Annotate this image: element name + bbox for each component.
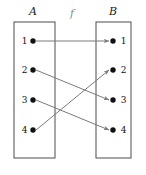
element-label-b4: 4: [119, 126, 128, 135]
arrow-a3-to-b4: [36, 100, 109, 130]
element-dot-a2: [30, 67, 35, 72]
element-label-a4: 4: [20, 126, 29, 135]
diagram-canvas: [0, 0, 146, 175]
element-dot-a1: [30, 38, 35, 43]
arrow-a4-to-b2: [36, 70, 109, 130]
element-label-b3: 3: [119, 96, 128, 105]
set-a-title: A: [23, 6, 43, 18]
mapping-arrows: [36, 41, 109, 130]
arrow-a2-to-b3: [36, 70, 109, 100]
element-label-a1: 1: [20, 37, 29, 46]
function-diagram: A B f 12341234: [0, 0, 146, 175]
element-dot-b1: [110, 38, 115, 43]
element-label-b2: 2: [119, 66, 128, 75]
set-b-title: B: [103, 6, 123, 18]
element-dot-a4: [30, 127, 35, 132]
element-label-a2: 2: [20, 66, 29, 75]
element-dot-b2: [110, 67, 115, 72]
element-label-a3: 3: [20, 96, 29, 105]
element-dot-a3: [30, 97, 35, 102]
element-label-b1: 1: [119, 37, 128, 46]
function-label-f: f: [64, 8, 80, 20]
element-dot-b4: [110, 127, 115, 132]
element-dot-b3: [110, 97, 115, 102]
